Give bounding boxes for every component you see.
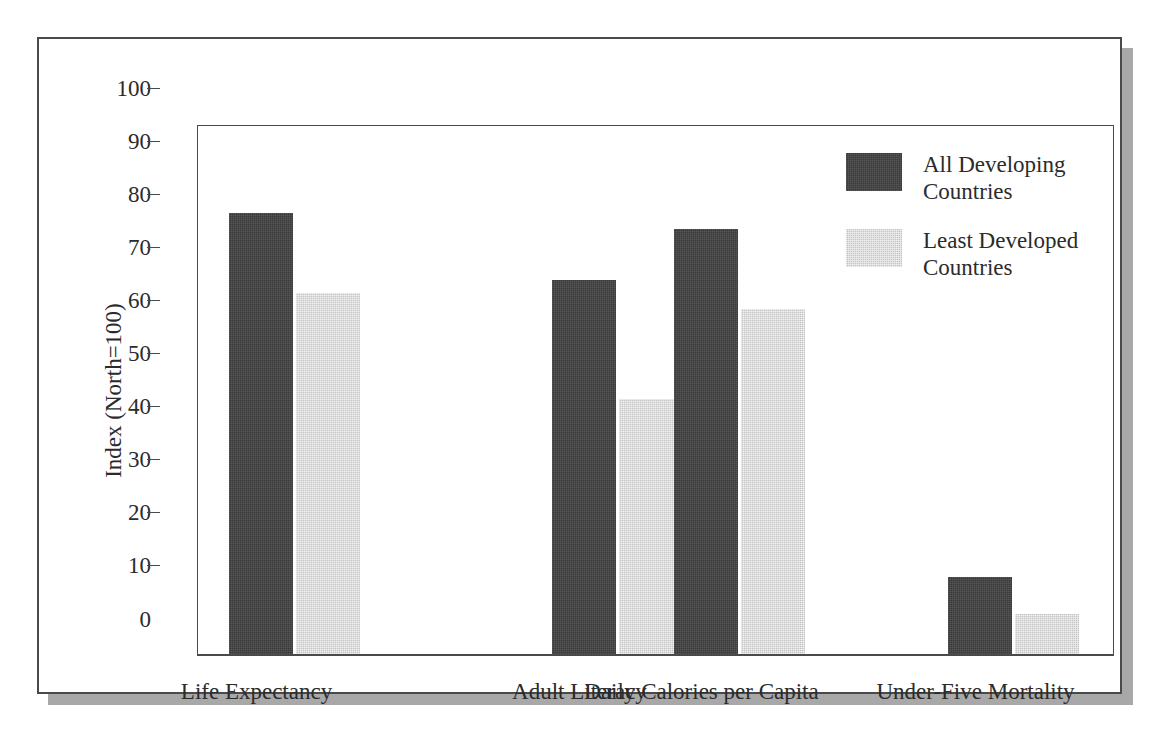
chart-figure-frame: Index (North=100) 0102030405060708090100… xyxy=(37,37,1122,694)
bar-all-developing xyxy=(229,213,293,654)
y-axis-tick-mark xyxy=(147,565,160,566)
bar-least-developed xyxy=(296,293,360,654)
bar-all-developing xyxy=(948,577,1012,654)
y-axis-tick-mark xyxy=(147,300,160,301)
y-axis-tick-mark xyxy=(147,141,160,142)
y-axis-tick-mark xyxy=(147,88,160,89)
legend-swatch xyxy=(846,153,902,191)
x-axis-category-label: Under-Five Mortality xyxy=(876,679,1074,705)
bar-all-developing xyxy=(552,280,616,654)
legend-label: All Developing Countries xyxy=(923,151,1065,205)
bar-all-developing xyxy=(674,229,738,654)
bar-least-developed xyxy=(741,309,805,654)
legend-item: All Developing Countries xyxy=(846,151,1096,205)
y-axis-tick-mark xyxy=(147,406,160,407)
legend-swatch xyxy=(846,229,902,267)
bar-least-developed xyxy=(1015,614,1079,654)
y-axis-tick-mark xyxy=(147,459,160,460)
legend-item: Least Developed Countries xyxy=(846,227,1096,281)
y-axis-tick-mark xyxy=(147,353,160,354)
x-axis-category-label: Life Expectancy xyxy=(181,679,332,705)
y-axis-tick-mark xyxy=(147,512,160,513)
x-axis-category-label: Daily Calories per Capita xyxy=(584,679,818,705)
y-axis-tick-mark xyxy=(147,247,160,248)
y-axis-tick-mark xyxy=(147,194,160,195)
chart-legend: All Developing CountriesLeast Developed … xyxy=(846,151,1096,304)
legend-label: Least Developed Countries xyxy=(923,227,1078,281)
y-axis-tick-label: 0 xyxy=(140,608,161,631)
